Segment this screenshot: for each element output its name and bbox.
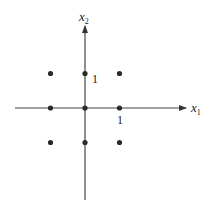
lattice-point [82,105,87,110]
lattice-point [117,140,122,145]
lattice-point [82,71,87,76]
y-tick-label-1: 1 [92,72,98,86]
x-tick-label-1: 1 [117,113,123,127]
x-axis-label: x1 [190,100,201,117]
lattice-point [117,105,122,110]
lattice-point [48,140,53,145]
lattice-point [82,140,87,145]
lattice-point [48,71,53,76]
lattice-point [117,71,122,76]
lattice-diagram: x1 x2 1 1 [0,0,210,209]
lattice-point [48,105,53,110]
y-axis-label: x2 [78,9,89,26]
